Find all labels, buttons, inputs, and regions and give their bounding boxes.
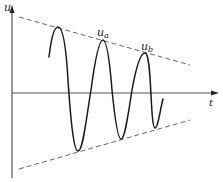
x-axis-arrow-icon (211, 91, 219, 96)
oscillation-diagram (0, 0, 223, 182)
annotation-ub: ub (141, 41, 153, 54)
annotation-ua: ua (97, 27, 109, 40)
annotation-ub-sub: b (148, 45, 153, 54)
y-axis-label: u (4, 2, 11, 13)
lower-envelope (19, 120, 190, 169)
x-axis-label: t (209, 98, 213, 108)
annotation-ua-sub: a (104, 31, 109, 40)
